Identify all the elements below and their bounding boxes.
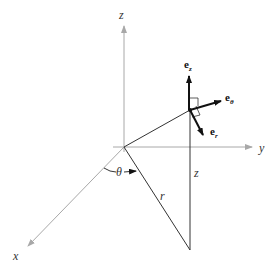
r-label: r (160, 189, 165, 203)
e-z-vector: ez (184, 58, 192, 110)
e-r-vector: er (190, 110, 218, 140)
z-height-label: z (193, 166, 199, 180)
cylindrical-coordinates-diagram: z y x θ r z ez eθ er (0, 0, 276, 272)
e-z-label: ez (184, 58, 192, 73)
z-axis-label: z (118, 8, 124, 22)
theta-label: θ (116, 165, 122, 179)
x-axis: x (12, 147, 124, 263)
r-line (124, 147, 190, 250)
x-axis-label: x (12, 249, 19, 263)
y-axis: y (113, 141, 265, 155)
e-r-label: er (210, 125, 218, 140)
z-axis: z (118, 8, 124, 152)
e-theta-label: eθ (225, 91, 234, 106)
origin-to-point-line (124, 110, 190, 147)
e-theta-vector: eθ (190, 91, 234, 110)
y-axis-label: y (258, 141, 265, 155)
theta-arc: θ (104, 165, 136, 179)
